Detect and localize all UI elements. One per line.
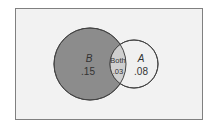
set-b-name: B: [86, 53, 93, 64]
set-a-value: .08: [134, 66, 148, 77]
set-a-name: A: [137, 53, 145, 64]
intersection-label: Both: [110, 56, 125, 65]
intersection-value: .03: [113, 67, 123, 76]
set-b-value: .15: [81, 66, 95, 77]
venn-diagram: B .15 A .08 Both .03: [0, 0, 212, 127]
